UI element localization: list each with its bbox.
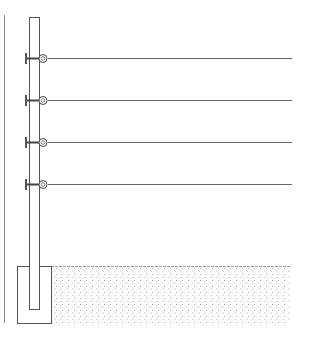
- wire-4: [25, 179, 292, 190]
- insulator-ring-icon: [39, 55, 47, 63]
- fence-post: [30, 18, 40, 310]
- insulator-ring-icon: [39, 181, 47, 189]
- insulator-ring-icon: [39, 97, 47, 105]
- ground-soil: [51, 266, 290, 323]
- insulator-ring-icon: [39, 139, 47, 147]
- wire-1: [25, 53, 292, 64]
- wire-2: [25, 95, 292, 106]
- wire-3: [25, 137, 292, 148]
- fence-diagram: [0, 0, 309, 341]
